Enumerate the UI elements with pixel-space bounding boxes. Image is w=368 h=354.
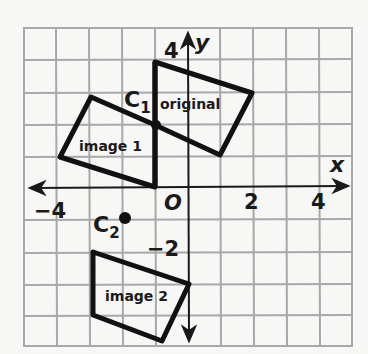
y-tick-neg2: −2 [147,237,179,261]
y-tick-4: 4 [164,39,179,63]
origin-label: O [164,191,182,215]
coordinate-plane: C1 C2 original image 1 image 2 y x O −4 … [0,0,368,354]
point-c1 [151,120,161,130]
label-image-2: image 2 [105,288,168,304]
label-c2: C2 [93,212,120,242]
label-image-1: image 1 [79,138,142,154]
x-axis-label: x [329,152,345,177]
label-original: original [160,96,220,112]
x-tick-2: 2 [244,190,259,214]
point-c2 [119,212,131,224]
x-tick-4: 4 [311,190,326,214]
y-axis-label: y [195,30,211,55]
x-tick-neg4: −4 [34,199,66,223]
